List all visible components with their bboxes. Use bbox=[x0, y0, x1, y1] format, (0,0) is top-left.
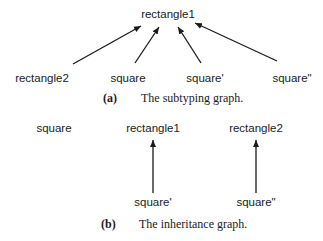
node-b-square-prime: square' bbox=[134, 196, 171, 208]
node-b-rectangle1: rectangle1 bbox=[126, 122, 180, 134]
edge-rectangle2-to-rectangle1 bbox=[73, 26, 141, 64]
caption-b: (b)The inheritance graph. bbox=[101, 217, 247, 232]
node-b-square-double-prime: square" bbox=[236, 196, 275, 208]
caption-b-text: The inheritance graph. bbox=[139, 217, 247, 231]
node-a-rectangle2: rectangle2 bbox=[15, 72, 69, 84]
caption-a-text: The subtyping graph. bbox=[141, 91, 243, 105]
node-a-square: square bbox=[110, 72, 145, 84]
caption-a-label: (a) bbox=[103, 91, 141, 106]
node-a-rectangle1: rectangle1 bbox=[141, 8, 195, 20]
node-a-square-prime: square' bbox=[186, 72, 223, 84]
node-b-rectangle2: rectangle2 bbox=[229, 122, 283, 134]
caption-a: (a)The subtyping graph. bbox=[103, 91, 243, 106]
edge-square-double-prime-to-rectangle1 bbox=[195, 23, 277, 61]
caption-b-label: (b) bbox=[101, 217, 139, 232]
node-a-square-double-prime: square" bbox=[272, 72, 311, 84]
edge-square-prime-to-rectangle1 bbox=[178, 27, 201, 63]
edge-square-to-rectangle1 bbox=[135, 27, 159, 63]
node-b-square: square bbox=[36, 122, 71, 134]
